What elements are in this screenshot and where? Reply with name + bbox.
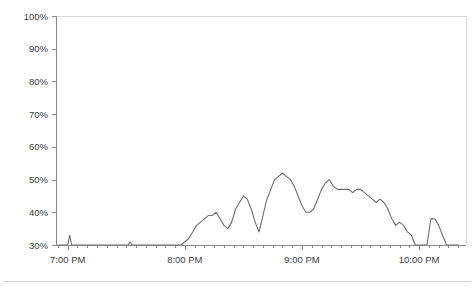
y-tick-label: 50%: [29, 174, 49, 185]
series-group: [58, 173, 458, 245]
x-tick-label: 7:00 PM: [50, 254, 85, 265]
y-tick-label: 40%: [29, 207, 49, 218]
line-chart[interactable]: 30%40%50%60%70%80%90%100% 7:00 PM8:00 PM…: [0, 0, 475, 291]
x-tick-label: 9:00 PM: [284, 254, 319, 265]
y-tick-label: 70%: [29, 109, 49, 120]
y-tick-label: 90%: [29, 43, 49, 54]
chart-panel: 30%40%50%60%70%80%90%100% 7:00 PM8:00 PM…: [0, 0, 475, 291]
series-line-utilization: [58, 173, 458, 245]
y-tick-label: 30%: [29, 240, 49, 251]
panel-bottom-divider: [4, 281, 471, 282]
x-tick-label: 10:00 PM: [399, 254, 440, 265]
x-tick-labels: 7:00 PM8:00 PM9:00 PM10:00 PM: [50, 254, 440, 265]
y-tick-label: 100%: [24, 11, 49, 22]
y-axis-group: 30%40%50%60%70%80%90%100%: [24, 11, 57, 251]
y-tick-marks: [52, 17, 56, 246]
x-axis-group: 7:00 PM8:00 PM9:00 PM10:00 PM: [50, 245, 466, 265]
x-tick-label: 8:00 PM: [167, 254, 202, 265]
y-tick-labels: 30%40%50%60%70%80%90%100%: [24, 11, 49, 251]
y-tick-label: 60%: [29, 141, 49, 152]
y-tick-label: 80%: [29, 76, 49, 87]
